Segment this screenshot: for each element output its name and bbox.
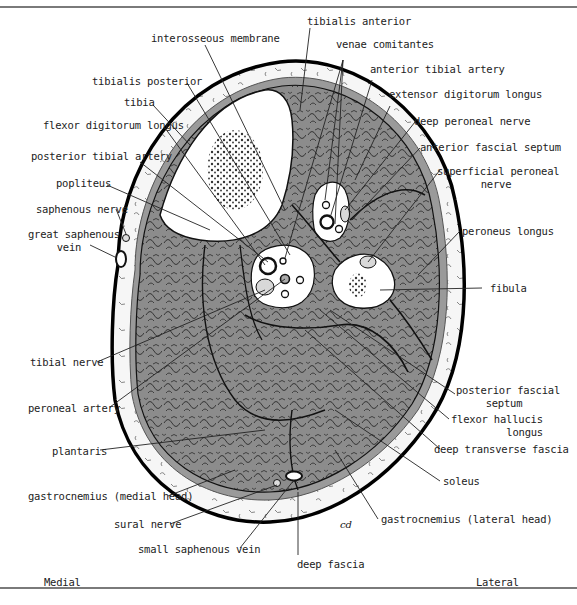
saphenous-nerve-shape [123, 235, 130, 242]
label-flexor-hallucis-longus-line2: longus [451, 426, 543, 439]
label-superficial-peroneal-nerve-line2: nerve [437, 178, 555, 191]
label-peroneal-artery: peroneal artery [28, 402, 120, 415]
label-gastrocnemius-lateral-head: gastrocnemius (lateral head) [381, 513, 552, 526]
vena-comitans-peroneal [297, 277, 304, 284]
label-peroneus-longus: peroneus longus [462, 225, 554, 238]
label-great-saphenous-vein-line1: great saphenous [28, 228, 110, 241]
label-deep-fascia: deep fascia [297, 558, 364, 571]
label-soleus: soleus [443, 475, 480, 488]
label-plantaris: plantaris [52, 445, 107, 458]
label-venae-comitantes: venae comitantes [336, 38, 434, 51]
vena-comitans-lower [282, 291, 289, 298]
great-saphenous-vein-shape [116, 251, 126, 267]
label-superficial-peroneal-nerve-line1: superficial peroneal [437, 165, 555, 178]
label-posterior-tibial-artery: posterior tibial artery [31, 150, 172, 163]
label-tibialis-posterior: tibialis posterior [92, 75, 202, 88]
vena-comitans-anterior-2 [336, 226, 343, 233]
vena-comitans-anterior-1 [323, 202, 330, 209]
label-flexor-hallucis-longus: flexor hallucis longus [451, 413, 543, 439]
label-small-saphenous-vein: small saphenous vein [138, 543, 260, 556]
label-deep-transverse-fascia: deep transverse fascia [434, 443, 569, 456]
label-fibula: fibula [490, 282, 527, 295]
label-superficial-peroneal-nerve: superficial peroneal nerve [437, 165, 555, 191]
tibia-marrow [207, 130, 263, 210]
vena-comitans-posterior [280, 258, 286, 264]
label-flexor-hallucis-longus-line1: flexor hallucis [451, 413, 543, 426]
label-tibialis-anterior: tibialis anterior [307, 15, 411, 28]
small-saphenous-vein-shape [286, 472, 302, 481]
label-extensor-digitorum-longus: extensor digitorum longus [389, 88, 542, 101]
label-posterior-fascial-septum-line1: posterior fascial [456, 384, 552, 397]
label-anterior-fascial-septum: anterior fascial septum [420, 141, 561, 154]
anterior-tibial-artery-vessel [321, 216, 334, 229]
label-popliteus: popliteus [56, 177, 111, 190]
label-great-saphenous-vein: great saphenous vein [28, 228, 110, 254]
deep-peroneal-nerve-shape [341, 206, 350, 222]
label-lateral: Lateral [476, 576, 519, 589]
label-tibia: tibia [124, 96, 155, 109]
label-saphenous-nerve: saphenous nerve [36, 203, 128, 216]
label-tibial-nerve: tibial nerve [30, 356, 103, 369]
artist-signature: cd [340, 519, 352, 530]
label-anterior-tibial-artery: anterior tibial artery [370, 63, 505, 76]
label-great-saphenous-vein-line2: vein [28, 241, 110, 254]
label-deep-peroneal-nerve: deep peroneal nerve [414, 115, 530, 128]
label-interosseous-membrane: interosseous membrane [151, 32, 280, 45]
label-sural-nerve: sural nerve [114, 518, 181, 531]
label-posterior-fascial-septum: posterior fascial septum [456, 384, 552, 410]
label-gastrocnemius-medial-head: gastrocnemius (medial head) [28, 490, 193, 503]
label-posterior-fascial-septum-line2: septum [456, 397, 552, 410]
label-medial: Medial [44, 576, 81, 589]
label-flexor-digitorum-longus: flexor digitorum longus [43, 119, 184, 132]
fibula-marrow [349, 273, 367, 297]
posterior-tibial-artery-vessel [260, 258, 276, 274]
